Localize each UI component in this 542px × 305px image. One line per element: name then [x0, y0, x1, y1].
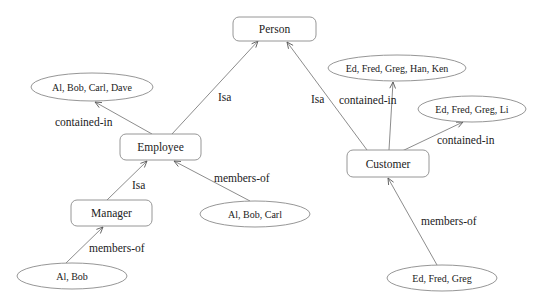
edge-label: contained-in: [437, 134, 495, 146]
edge-employee-isa-person: Isa: [172, 41, 258, 134]
edge-label: members-of: [421, 215, 477, 227]
set-node-set-al-bob-carl[interactable]: Al, Bob, Carl: [200, 201, 310, 227]
arrowhead-icon: [95, 102, 102, 108]
set-node-set-ed-fred-greg[interactable]: Ed, Fred, Greg: [387, 265, 497, 291]
edge-customer-contained-in-right: contained-in: [400, 122, 495, 152]
edge-al-bob-carl-members-of: members-of: [174, 161, 270, 201]
arrowhead-icon: [388, 178, 394, 185]
edge-line: [172, 41, 258, 134]
class-node-employee[interactable]: Employee: [120, 134, 201, 160]
class-label: Person: [259, 23, 291, 35]
edge-employee-contained-in: contained-in: [55, 102, 152, 134]
isa-membership-diagram: IsaIsacontained-incontained-incontained-…: [0, 0, 542, 305]
class-node-manager[interactable]: Manager: [71, 200, 152, 226]
edge-line: [389, 82, 393, 150]
edge-customer-contained-in-top: contained-in: [339, 82, 397, 150]
set-label: Ed, Fred, Greg, Li: [435, 104, 509, 115]
set-label: Ed, Fred, Greg: [412, 273, 471, 284]
edge-label: Isa: [311, 93, 324, 105]
set-label: Al, Bob, Carl: [228, 209, 282, 220]
arrowhead-icon: [287, 42, 293, 49]
set-label: Al, Bob: [56, 271, 88, 282]
edge-label: Isa: [132, 179, 145, 191]
set-label: Al, Bob, Carl, Dave: [52, 82, 133, 93]
set-node-set-ed-fred-greg-li[interactable]: Ed, Fred, Greg, Li: [418, 96, 526, 122]
edge-label: Isa: [218, 91, 231, 103]
class-node-customer[interactable]: Customer: [347, 150, 429, 177]
edge-label: contained-in: [55, 116, 113, 128]
edge-label: members-of: [89, 242, 145, 254]
set-node-set-al-bob[interactable]: Al, Bob: [17, 263, 127, 289]
class-label: Employee: [137, 141, 184, 154]
class-node-person[interactable]: Person: [233, 17, 316, 41]
class-label: Manager: [91, 207, 132, 220]
edge-manager-isa-employee: Isa: [107, 161, 147, 200]
edge-label: contained-in: [339, 94, 397, 106]
edge-label: members-of: [214, 172, 270, 184]
set-node-set-ed-fred-greg-han-ken[interactable]: Ed, Fred, Greg, Han, Ken: [328, 55, 466, 81]
edge-ed-fred-greg-members-of: members-of: [388, 178, 477, 265]
set-label: Ed, Fred, Greg, Han, Ken: [346, 63, 449, 74]
class-label: Customer: [366, 158, 411, 170]
set-node-set-al-bob-carl-dave[interactable]: Al, Bob, Carl, Dave: [31, 73, 153, 101]
edge-al-bob-members-of: members-of: [66, 227, 145, 263]
